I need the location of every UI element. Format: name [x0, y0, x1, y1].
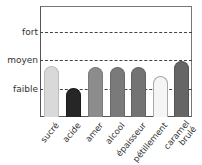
- ytick-label-fort: fort: [22, 27, 38, 37]
- bar-épaisseur: [131, 67, 146, 117]
- ytick-label-faible: faible: [13, 84, 38, 94]
- bar-pétillement: [153, 76, 168, 117]
- gridline-moyen: [40, 60, 192, 61]
- bar-caramel-brulé: [174, 61, 189, 117]
- ytick-label-moyen: moyen: [7, 55, 38, 65]
- bar-acide: [66, 88, 81, 117]
- bar-alcool: [110, 67, 125, 117]
- gridline-fort: [40, 32, 192, 33]
- x-label-acide: acide: [61, 121, 83, 144]
- x-label-sucré: sucré: [39, 121, 61, 144]
- bar-sucré: [44, 66, 59, 117]
- x-label-amer: amer: [84, 121, 105, 144]
- bar-amer: [88, 67, 103, 117]
